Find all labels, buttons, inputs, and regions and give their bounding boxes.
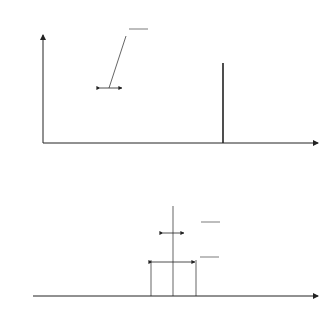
panel-a [0, 0, 318, 143]
dft-filter-bank-diagram [0, 0, 331, 334]
panel-b [0, 0, 318, 296]
leader-line [109, 36, 126, 88]
